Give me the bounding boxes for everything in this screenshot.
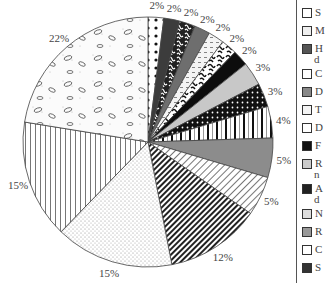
legend-label: N (315, 208, 323, 219)
legend-item: D (302, 122, 323, 133)
slice-percent-label: 12% (213, 251, 233, 263)
legend-label: R (315, 226, 322, 237)
legend-swatch (302, 26, 312, 36)
legend-swatch (302, 8, 312, 18)
legend-swatch (302, 123, 312, 133)
legend-label: T (315, 104, 322, 115)
pie-slice (25, 17, 148, 142)
slice-percent-label: 2% (184, 6, 199, 18)
legend-label: D (315, 122, 323, 133)
legend-swatch (302, 87, 312, 97)
legend-label: S (315, 262, 321, 273)
legend-item: R (302, 226, 322, 237)
legend-label: C (315, 244, 322, 255)
legend-label: C (315, 68, 322, 79)
slice-percent-label: 5% (264, 195, 279, 207)
legend-swatch (302, 184, 312, 194)
slice-percent-label: 2% (149, 0, 164, 11)
legend-label: D (315, 86, 323, 97)
legend-item: S (302, 7, 321, 18)
slice-percent-label: 2% (215, 21, 230, 33)
legend-item: Ad (302, 183, 323, 205)
slice-percent-label: 3% (255, 61, 270, 73)
legend-item: Rn (302, 158, 322, 180)
legend-label: Hd (315, 43, 323, 65)
legend-item: C (302, 244, 322, 255)
legend-swatch (302, 209, 312, 219)
legend-item: D (302, 86, 323, 97)
legend-item: S (302, 262, 321, 273)
legend-item: M (302, 25, 325, 36)
legend-item: C (302, 68, 322, 79)
legend-item: T (302, 104, 322, 115)
legend-label: Rn (315, 158, 322, 180)
slice-percent-label: 4% (276, 114, 291, 126)
legend-label: M (315, 25, 325, 36)
legend-swatch (302, 141, 312, 151)
legend-label: F (315, 140, 321, 151)
legend-swatch (302, 245, 312, 255)
legend-item: F (302, 140, 321, 151)
legend-label: Ad (315, 183, 323, 205)
legend-label: S (315, 7, 321, 18)
slice-percent-label: 2% (242, 44, 257, 56)
legend: SMHdCDTDFRnAdNRCS (296, 0, 326, 283)
legend-item: N (302, 208, 323, 219)
slice-percent-label: 3% (268, 85, 283, 97)
legend-swatch (302, 44, 312, 54)
legend-item: Hd (302, 43, 323, 65)
slice-percent-label: 2% (200, 13, 215, 25)
slice-percent-label: 2% (167, 2, 182, 14)
slice-percent-label: 2% (229, 32, 244, 44)
slice-percent-label: 22% (49, 32, 69, 44)
slice-percent-label: 15% (99, 267, 119, 279)
legend-swatch (302, 105, 312, 115)
pie-chart: 2%2%2%2%2%2%2%3%3%4%5%5%12%15%15%22% (0, 0, 296, 283)
slice-percent-label: 5% (277, 154, 292, 166)
legend-swatch (302, 263, 312, 273)
slice-percent-label: 15% (8, 179, 28, 191)
legend-swatch (302, 227, 312, 237)
pie-slices (23, 17, 273, 267)
legend-swatch (302, 69, 312, 79)
legend-swatch (302, 159, 312, 169)
